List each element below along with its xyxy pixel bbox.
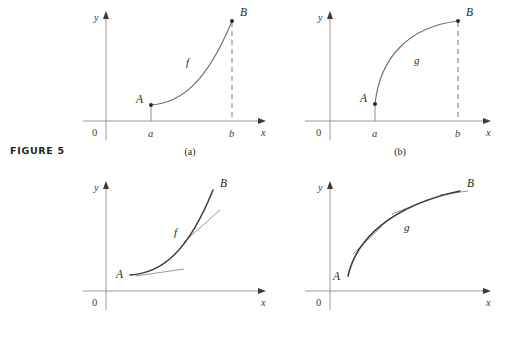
y-axis-arrow-icon (327, 11, 333, 19)
origin-label: 0 (92, 127, 97, 138)
point-b-label: B (467, 177, 474, 189)
point-b-dot (456, 19, 460, 23)
y-axis-label: y (93, 12, 99, 23)
x-axis-arrow-icon (483, 288, 491, 294)
y-axis-label: y (317, 182, 323, 193)
tick-a-label: a (372, 128, 377, 139)
x-axis-arrow-icon (258, 288, 266, 294)
x-axis-label: x (485, 127, 491, 138)
origin-label: 0 (316, 127, 321, 138)
tick-a-label: a (148, 128, 153, 139)
function-label-f: f (186, 56, 191, 68)
point-b-label: B (240, 6, 247, 18)
fig6-panel-a-chart: y x 0 A B f (80, 170, 280, 315)
tick-b-label: b (229, 128, 234, 139)
fig6-panel-b-chart: y x 0 A B g (300, 170, 505, 315)
curve-g (348, 191, 460, 276)
function-label-g: g (414, 54, 420, 66)
figure-5-block: y x 0 a b A B f y x 0 a b A B g FIGURE 5… (0, 0, 509, 170)
origin-label: 0 (316, 297, 321, 308)
point-a-label: A (332, 270, 341, 282)
point-a-label: A (359, 92, 368, 104)
fig5-panel-b-chart: y x 0 a b A B g (300, 0, 505, 145)
point-b-label: B (466, 6, 473, 18)
y-axis-arrow-icon (103, 11, 109, 19)
point-a-label: A (115, 268, 124, 280)
fig5-panel-a-chart: y x 0 a b A B f (80, 0, 280, 145)
y-axis-label: y (317, 12, 323, 23)
x-axis-label: x (485, 297, 491, 308)
tangent-line-1 (353, 226, 382, 254)
curve-f (130, 190, 213, 275)
point-a-dot (149, 103, 153, 107)
figure-5-tag: FIGURE 5 (10, 145, 65, 156)
x-axis-arrow-icon (258, 118, 266, 124)
x-axis-label: x (260, 297, 266, 308)
point-b-label: B (220, 177, 227, 189)
tick-b-label: b (455, 128, 460, 139)
y-axis-arrow-icon (103, 181, 109, 189)
function-label-f: f (174, 226, 179, 238)
fig5-caption-b: (b) (330, 146, 470, 157)
fig5-caption-a: (a) (120, 146, 260, 157)
point-a-label: A (135, 93, 144, 105)
point-a-dot (373, 102, 377, 106)
origin-label: 0 (92, 297, 97, 308)
point-b-dot (230, 19, 234, 23)
y-axis-label: y (93, 182, 99, 193)
x-axis-label: x (260, 127, 266, 138)
x-axis-arrow-icon (483, 118, 491, 124)
figure-6-block: y x 0 A B f y x 0 A B g FIGURE 6 (a) Con… (0, 170, 509, 342)
y-axis-arrow-icon (327, 181, 333, 189)
function-label-g: g (404, 221, 410, 233)
curve-f (151, 21, 232, 105)
